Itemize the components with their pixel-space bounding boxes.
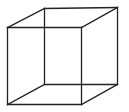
depth-top-left-edge bbox=[8, 9, 45, 28]
back-top-edge bbox=[45, 8, 118, 9]
depth-bottom-left-edge bbox=[8, 85, 45, 105]
depth-top-right-edge bbox=[82, 8, 118, 28]
cube-edges bbox=[8, 8, 118, 105]
depth-bottom-right-edge bbox=[82, 85, 118, 105]
necker-cube-diagram bbox=[0, 0, 129, 112]
